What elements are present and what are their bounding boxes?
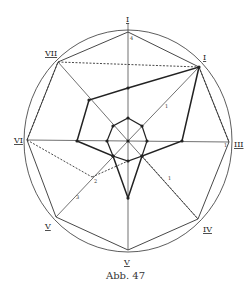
vertex-dot	[140, 124, 143, 127]
spoke-line	[58, 62, 128, 141]
vertex-dot	[180, 139, 183, 142]
vertex-dot	[126, 196, 129, 199]
spoke-label: VI	[13, 136, 23, 145]
radial-diagram: IIIIIIVVVVIVII 112341	[0, 0, 251, 291]
tick-label: 2	[94, 178, 97, 184]
vertex-dot	[197, 65, 200, 68]
vertex-dot	[111, 124, 114, 127]
vertex-dot	[126, 159, 129, 162]
tick-label: 1	[224, 142, 227, 148]
tick-label: 3	[76, 194, 79, 200]
dashed-line	[58, 62, 199, 67]
tick-label: 4	[130, 35, 133, 41]
spoke-label: IV	[203, 225, 212, 234]
vertex-dot	[140, 154, 143, 157]
spoke-label: V	[123, 258, 130, 267]
vertex-dot	[87, 98, 90, 101]
dashed-line	[92, 161, 128, 177]
spoke-label: VII	[44, 49, 57, 58]
tick-label: 1	[165, 103, 168, 109]
vertex-dot	[111, 154, 114, 157]
tick-label: 1	[168, 175, 171, 181]
dashed-line	[142, 156, 198, 219]
vertex-dot	[105, 139, 108, 142]
spoke-line	[56, 141, 128, 217]
dashed-line	[27, 140, 92, 177]
vertex-dot	[126, 139, 129, 142]
spoke-label: I	[203, 53, 206, 62]
vertex-dot	[126, 116, 129, 119]
spoke-label: I	[126, 15, 129, 24]
vertex-dot	[145, 139, 148, 142]
vertex-dot	[75, 139, 78, 142]
vertex-dot	[126, 86, 129, 89]
spoke-label: III	[234, 140, 243, 149]
spoke-label: V	[44, 222, 51, 231]
figure-caption: Abb. 47	[0, 270, 251, 281]
